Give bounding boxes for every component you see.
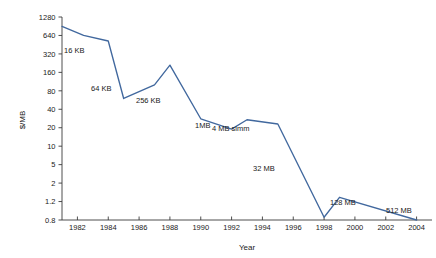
x-tick-label: 1986 bbox=[131, 223, 148, 232]
x-tick-label: 1990 bbox=[192, 223, 209, 232]
x-tick-label: 2000 bbox=[347, 223, 364, 232]
y-tick-label: 2 bbox=[51, 179, 55, 188]
x-tick-label: 1998 bbox=[316, 223, 333, 232]
x-tick-label: 1984 bbox=[100, 223, 117, 232]
y-tick-label: 80 bbox=[47, 87, 55, 96]
y-axis-ticks: 128064032016080402010521.20.8 bbox=[39, 13, 62, 225]
x-axis-ticks: 1982198419861988199019921994199619982000… bbox=[69, 217, 425, 233]
x-tick-label: 2002 bbox=[377, 223, 394, 232]
y-tick-label: 160 bbox=[43, 68, 56, 77]
y-tick-label: 320 bbox=[43, 50, 56, 59]
y-tick-label: 10 bbox=[47, 142, 55, 151]
chart-canvas: 128064032016080402010521.20.8 1982198419… bbox=[0, 0, 436, 258]
data-point-annotation: 64 KB bbox=[91, 84, 111, 93]
data-point-annotation: 1MB bbox=[195, 121, 210, 130]
data-point-annotation: 128 MB bbox=[330, 198, 356, 207]
y-tick-label: 640 bbox=[43, 31, 56, 40]
memory-price-chart: 128064032016080402010521.20.8 1982198419… bbox=[0, 0, 436, 258]
y-tick-label: 20 bbox=[47, 123, 55, 132]
data-point-annotation: 256 KB bbox=[136, 96, 161, 105]
data-point-annotation: 4 MB simm bbox=[212, 124, 250, 133]
data-point-annotation: 16 KB bbox=[64, 46, 84, 55]
x-axis-title: Year bbox=[239, 243, 256, 252]
x-tick-label: 1992 bbox=[223, 223, 240, 232]
x-tick-label: 1988 bbox=[162, 223, 179, 232]
y-tick-label: 1280 bbox=[39, 13, 56, 22]
x-tick-label: 1996 bbox=[285, 223, 302, 232]
data-point-annotation: 512 MB bbox=[386, 206, 412, 215]
data-point-annotation: 32 MB bbox=[253, 164, 275, 173]
y-tick-label: 40 bbox=[47, 105, 55, 114]
y-tick-label: 1.2 bbox=[45, 197, 55, 206]
x-tick-label: 1994 bbox=[254, 223, 271, 232]
y-tick-label: 0.8 bbox=[45, 216, 55, 225]
y-axis-title: $/MB bbox=[18, 111, 27, 130]
y-tick-label: 5 bbox=[51, 160, 55, 169]
axes-group bbox=[62, 17, 432, 220]
x-tick-label: 1982 bbox=[69, 223, 86, 232]
x-tick-label: 2004 bbox=[408, 223, 425, 232]
